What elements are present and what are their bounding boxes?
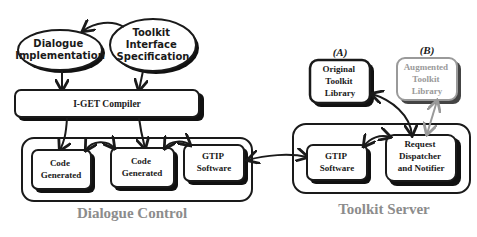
compiler-label: I-GET Compiler (73, 99, 141, 109)
augmented-library-line2: Toolkit (412, 74, 439, 84)
svg-text:Request Dispatcher: Request Dispatcher and Notifier (398, 139, 445, 173)
original-toolkit-library-box: Original Toolkit Library (310, 60, 374, 107)
gtip-dialogue-line2: Software (197, 163, 231, 173)
request-dispatcher-line2: Dispatcher (399, 151, 441, 161)
arrow-code1-code2 (86, 142, 114, 150)
arrow-spec-to-compiler (139, 71, 143, 90)
gtip-software-server-box: GTIP Software (307, 145, 371, 184)
augmented-library-line3: Library (412, 86, 443, 96)
library-b-tag: (B) (420, 44, 435, 57)
arrow-dispatcher-augmented-library (427, 101, 437, 134)
library-a-tag: (A) (333, 46, 348, 59)
request-dispatcher-box: Request Dispatcher and Notifier (386, 135, 461, 186)
dialogue-implementation-line1: Dialogue (33, 38, 83, 49)
request-dispatcher-line3: and Notifier (398, 163, 445, 173)
augmented-library-line1: Augmented (404, 62, 449, 72)
dialogue-control-caption: Dialogue Control (77, 205, 187, 221)
toolkit-interface-spec-line3: Specification (117, 51, 190, 62)
toolkit-server-caption: Toolkit Server (338, 201, 430, 217)
code-generated-2-line2: Generated (122, 168, 163, 178)
gtip-dialogue-line1: GTIP (202, 151, 225, 161)
request-dispatcher-line1: Request (404, 139, 435, 149)
code-generated-box-2: Code Generated (111, 148, 178, 191)
toolkit-interface-spec-line2: Interface (126, 39, 177, 50)
dialogue-implementation-line2: Implementation (15, 50, 105, 61)
augmented-toolkit-library-box: Augmented Toolkit Library (397, 58, 461, 104)
gtip-software-dialogue-box: GTIP Software (184, 145, 248, 185)
arrow-compiler-to-code2 (139, 118, 145, 148)
architecture-diagram: Dialogue Implementation Toolkit Interfac… (0, 0, 477, 237)
code-generated-2-line1: Code (131, 156, 151, 166)
original-library-line2: Toolkit (325, 76, 352, 86)
gtip-server-line1: GTIP (325, 151, 348, 161)
igt-compiler-box: I-GET Compiler (15, 90, 204, 121)
code-generated-1-line1: Code (50, 158, 70, 168)
dialogue-implementation-node: Dialogue Implementation (15, 30, 105, 73)
arrow-gtip-to-gtip (248, 155, 307, 160)
arrow-compiler-to-code1 (60, 118, 67, 150)
code-generated-box-1: Code Generated (32, 150, 95, 193)
gtip-server-line2: Software (320, 163, 354, 173)
svg-text:Original Toolkit L: Original Toolkit Library (323, 64, 358, 98)
code-generated-1-line2: Generated (41, 170, 82, 180)
toolkit-interface-spec-line1: Toolkit (132, 27, 170, 38)
original-library-line1: Original (323, 64, 356, 74)
original-library-line3: Library (325, 88, 356, 98)
